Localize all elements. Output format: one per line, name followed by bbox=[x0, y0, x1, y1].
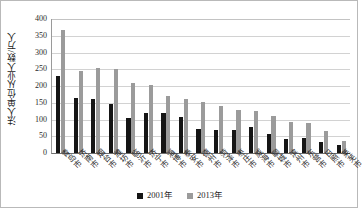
bar-group bbox=[87, 19, 105, 153]
y-axis-tick-label: 250 bbox=[35, 65, 47, 73]
legend-item: 2001年 bbox=[137, 191, 173, 200]
y-axis-tick-label: 300 bbox=[35, 49, 47, 57]
legend-label: 2013年 bbox=[197, 191, 223, 200]
bar-group bbox=[140, 19, 158, 153]
bar-series-2013 bbox=[61, 30, 65, 153]
legend-label: 2001年 bbox=[147, 191, 173, 200]
bar-series-2013 bbox=[184, 99, 188, 153]
bar-series-2013 bbox=[131, 83, 135, 153]
bar-series-2001 bbox=[109, 104, 113, 153]
y-axis-tick-label: 400 bbox=[35, 15, 47, 23]
bar-series-2013 bbox=[96, 68, 100, 153]
x-axis-ticks: 青岛市济南市烟台市潍坊市临沂市济宁市淄博市泰安市德州市菏泽市枣庄市威海市聊城市滨… bbox=[51, 154, 349, 194]
bar-series-2001 bbox=[91, 99, 95, 153]
bar-group bbox=[105, 19, 123, 153]
bar-series-2001 bbox=[232, 130, 236, 153]
bar-series-container bbox=[52, 19, 350, 153]
legend-swatch-icon bbox=[187, 193, 193, 199]
bar-series-2001 bbox=[249, 127, 253, 153]
bar-series-2001 bbox=[161, 113, 165, 153]
bar-group bbox=[175, 19, 193, 153]
bar-series-2013 bbox=[79, 71, 83, 153]
bar-series-2001 bbox=[56, 76, 60, 153]
bar-group bbox=[332, 19, 350, 153]
bar-group bbox=[52, 19, 70, 153]
bar-series-2001 bbox=[214, 130, 218, 153]
y-axis-tick-label: 350 bbox=[35, 32, 47, 40]
bar-group bbox=[297, 19, 315, 153]
bar-group bbox=[210, 19, 228, 153]
x-axis-tick-label: 莱芜市 bbox=[339, 148, 362, 171]
bar-group bbox=[280, 19, 298, 153]
bar-series-2013 bbox=[219, 106, 223, 153]
bar-series-2001 bbox=[196, 129, 200, 153]
y-axis-tick-label: 50 bbox=[39, 132, 47, 140]
bar-series-2001 bbox=[74, 98, 78, 153]
bar-series-2001 bbox=[284, 139, 288, 153]
bar-group bbox=[245, 19, 263, 153]
bar-group bbox=[262, 19, 280, 153]
y-axis-ticks: 400350300250200150100500 bbox=[19, 1, 49, 209]
bar-series-2001 bbox=[267, 134, 271, 153]
bar-group bbox=[315, 19, 333, 153]
bar-group bbox=[227, 19, 245, 153]
y-axis-tick-label: 200 bbox=[35, 82, 47, 90]
bar-group bbox=[192, 19, 210, 153]
bar-series-2013 bbox=[114, 69, 118, 153]
y-axis-tick-label: 100 bbox=[35, 116, 47, 124]
plot-area bbox=[51, 19, 350, 154]
bar-series-2001 bbox=[126, 118, 130, 153]
y-axis-title: 法人单位从业人数/万人 bbox=[3, 1, 19, 156]
bar-series-2013 bbox=[149, 85, 153, 153]
bar-series-2001 bbox=[302, 138, 306, 153]
bar-group bbox=[157, 19, 175, 153]
bar-series-2001 bbox=[179, 117, 183, 153]
y-axis-title-label: 法人单位从业人数/万人 bbox=[6, 32, 16, 125]
bar-series-2013 bbox=[166, 96, 170, 153]
y-axis-tick-label: 0 bbox=[43, 149, 47, 157]
y-axis-tick-label: 150 bbox=[35, 99, 47, 107]
bar-group bbox=[70, 19, 88, 153]
bar-series-2013 bbox=[201, 102, 205, 153]
legend-item: 2013年 bbox=[187, 191, 223, 200]
chart-legend: 2001年2013年 bbox=[1, 191, 359, 200]
bar-series-2001 bbox=[144, 113, 148, 153]
legend-swatch-icon bbox=[137, 193, 143, 199]
bar-group bbox=[122, 19, 140, 153]
